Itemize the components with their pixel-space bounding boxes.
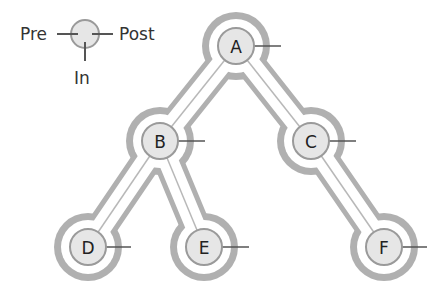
tree-nodes [70,28,402,265]
node-d-label: D [81,238,94,258]
tree-traversal-diagram: Pre Post In [0,0,448,296]
edge-c-f [311,141,384,247]
edge-b-d [88,141,160,247]
node-c-label: C [305,132,317,152]
legend-pre-label: Pre [20,24,47,44]
node-a-label: A [230,37,242,57]
legend-post-label: Post [119,24,155,44]
node-e-label: E [199,238,210,258]
legend: Pre Post In [20,20,155,88]
node-b-label: B [154,132,166,152]
legend-in-label: In [74,68,90,88]
node-f-label: F [379,238,389,258]
